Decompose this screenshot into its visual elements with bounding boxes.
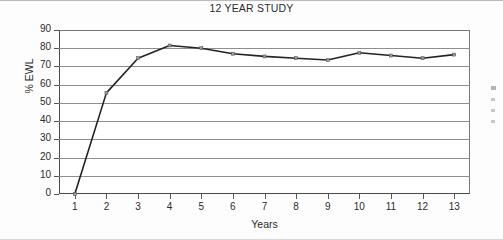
x-tick-label: 1 bbox=[63, 201, 87, 212]
y-tick-label: 50 bbox=[23, 96, 51, 107]
x-tick-label: 11 bbox=[379, 201, 403, 212]
y-tick-mark bbox=[54, 194, 59, 195]
data-point-marker bbox=[295, 57, 298, 60]
data-point-marker bbox=[137, 57, 140, 60]
x-axis-title: Years bbox=[59, 218, 470, 230]
plot-wrapper: 9080706050403020100 12345678910111213 bbox=[59, 30, 470, 194]
x-tick-mark bbox=[138, 194, 139, 199]
cropped-legend-sliver bbox=[491, 86, 501, 138]
data-point-marker bbox=[73, 193, 76, 196]
x-tick-label: 8 bbox=[284, 201, 308, 212]
x-tick-label: 12 bbox=[411, 201, 435, 212]
series-line-ewl bbox=[59, 30, 470, 194]
y-tick-label: 30 bbox=[23, 132, 51, 143]
y-tick-label: 90 bbox=[23, 23, 51, 34]
x-tick-mark bbox=[423, 194, 424, 199]
y-tick-label: 40 bbox=[23, 114, 51, 125]
y-tick-label: 80 bbox=[23, 41, 51, 52]
x-tick-label: 4 bbox=[158, 201, 182, 212]
x-tick-mark bbox=[359, 194, 360, 199]
x-tick-mark bbox=[265, 194, 266, 199]
y-tick-label: 0 bbox=[23, 187, 51, 198]
data-point-marker bbox=[326, 59, 329, 62]
scan-edge-top bbox=[0, 0, 503, 1]
x-tick-mark bbox=[170, 194, 171, 199]
x-tick-label: 2 bbox=[94, 201, 118, 212]
data-point-marker bbox=[231, 52, 234, 55]
y-tick-label: 10 bbox=[23, 169, 51, 180]
chart-title: 12 YEAR STUDY bbox=[0, 2, 503, 14]
data-point-marker bbox=[200, 47, 203, 50]
x-tick-label: 5 bbox=[189, 201, 213, 212]
x-tick-mark bbox=[201, 194, 202, 199]
x-tick-label: 9 bbox=[316, 201, 340, 212]
x-tick-label: 6 bbox=[221, 201, 245, 212]
data-point-marker bbox=[358, 51, 361, 54]
x-tick-label: 3 bbox=[126, 201, 150, 212]
data-point-marker bbox=[421, 57, 424, 60]
y-tick-label: 60 bbox=[23, 78, 51, 89]
x-tick-mark bbox=[328, 194, 329, 199]
chart-figure: 12 YEAR STUDY % EWL 9080706050403020100 … bbox=[0, 0, 503, 240]
x-tick-mark bbox=[454, 194, 455, 199]
data-point-marker bbox=[389, 54, 392, 57]
x-tick-label: 13 bbox=[442, 201, 466, 212]
data-point-marker bbox=[168, 44, 171, 47]
x-tick-label: 7 bbox=[253, 201, 277, 212]
data-point-marker bbox=[263, 55, 266, 58]
x-tick-mark bbox=[296, 194, 297, 199]
data-point-marker bbox=[105, 91, 108, 94]
x-tick-mark bbox=[233, 194, 234, 199]
x-tick-label: 10 bbox=[347, 201, 371, 212]
y-tick-label: 70 bbox=[23, 59, 51, 70]
y-tick-label: 20 bbox=[23, 151, 51, 162]
x-tick-mark bbox=[106, 194, 107, 199]
data-point-marker bbox=[453, 53, 456, 56]
x-tick-mark bbox=[391, 194, 392, 199]
